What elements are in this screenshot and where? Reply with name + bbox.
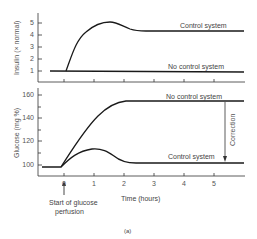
glucose-tick-120: 120 [14, 137, 34, 144]
chart-canvas [0, 0, 257, 239]
time-tick-0: 0 [59, 180, 69, 187]
glucose-tick-160: 160 [14, 91, 34, 98]
insulin-no-control-label: No control system [168, 63, 224, 70]
panel-label: (a) [124, 228, 131, 234]
time-tick-3: 3 [149, 180, 159, 187]
insulin-tick-2: 2 [14, 55, 34, 62]
time-tick-1: 1 [89, 180, 99, 187]
glucose-y-ticks [38, 95, 42, 165]
glucose-x-ticks [64, 173, 214, 176]
time-tick-2: 2 [119, 180, 129, 187]
glucose-tick-100: 100 [14, 161, 34, 168]
time-tick-5: 5 [209, 180, 219, 187]
time-tick-4: 4 [179, 180, 189, 187]
start-perfusion-label-2: perfusion [55, 208, 84, 215]
glucose-control-label: Control system [168, 153, 215, 160]
glucose-tick-140: 140 [14, 114, 34, 121]
insulin-x-ticks [64, 79, 214, 82]
correction-arrow-head [223, 156, 227, 162]
insulin-tick-4: 4 [14, 31, 34, 38]
insulin-y-ticks [38, 23, 42, 71]
start-perfusion-label-1: Start of glucose [49, 199, 98, 206]
insulin-tick-3: 3 [14, 43, 34, 50]
glucose-no-control-label: No control system [166, 93, 222, 100]
insulin-tick-5: 5 [14, 19, 34, 26]
insulin-tick-1: 1 [14, 67, 34, 74]
time-axis-label: Time (hours) [121, 195, 160, 202]
correction-label: Correction [229, 114, 236, 146]
insulin-no-control-line [50, 71, 244, 72]
insulin-control-label: Control system [180, 22, 227, 29]
glucose-control-line [61, 149, 244, 167]
